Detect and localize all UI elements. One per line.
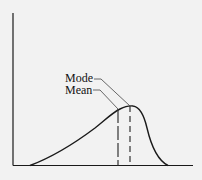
chart-figure: Mode Mean <box>0 0 202 180</box>
mean-label: Mean <box>65 83 92 97</box>
chart-svg: Mode Mean <box>0 0 202 180</box>
distribution-curve <box>30 106 168 166</box>
mean-leader-line <box>93 90 118 109</box>
mode-leader-line <box>94 79 130 106</box>
